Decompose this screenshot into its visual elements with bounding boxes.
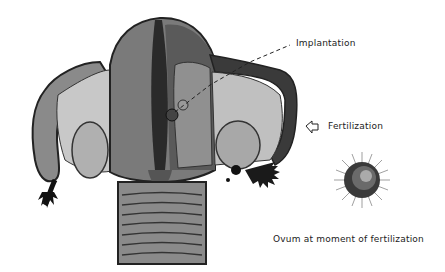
- left-fimbriae: [38, 192, 58, 208]
- implantation-label: Implantation: [296, 38, 356, 48]
- right-ovary: [216, 121, 260, 169]
- fertilization-label: Fertilization: [328, 121, 383, 131]
- uterus-illustration: [0, 0, 445, 272]
- fertilization-arrow-icon: [306, 121, 318, 133]
- ovum-illustration: [334, 152, 390, 208]
- ovum-caption: Ovum at moment of fertilization: [273, 234, 424, 244]
- left-ovary: [72, 122, 108, 178]
